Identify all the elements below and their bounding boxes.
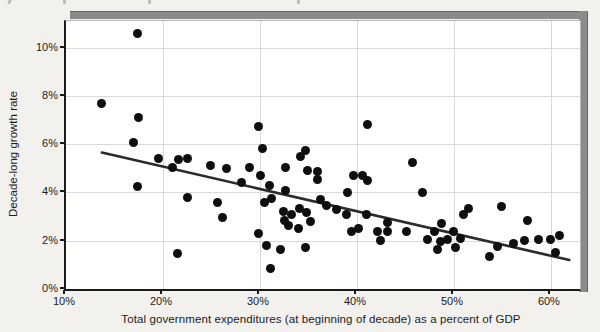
descender-mark <box>7 0 11 4</box>
y-tick-label: 8% <box>28 89 58 101</box>
data-point <box>276 245 285 254</box>
x-tick-label: 20% <box>141 295 181 307</box>
data-point <box>376 236 385 245</box>
data-point <box>443 235 452 244</box>
data-point <box>373 227 382 236</box>
data-point <box>133 29 142 38</box>
x-tick-label: 40% <box>335 295 375 307</box>
x-tick-mark <box>451 290 453 294</box>
y-axis-title: Decade-long growth rate <box>7 44 19 264</box>
data-point <box>296 152 305 161</box>
data-point <box>464 204 473 213</box>
data-point <box>267 194 276 203</box>
y-tick-mark <box>60 142 64 144</box>
data-point <box>97 99 106 108</box>
x-tick-label: 50% <box>432 295 472 307</box>
x-tick-mark <box>160 290 162 294</box>
data-point <box>313 175 322 184</box>
data-point <box>279 207 288 216</box>
data-point <box>281 163 290 172</box>
data-point <box>362 210 371 219</box>
y-tick-mark <box>60 46 64 48</box>
data-point <box>347 227 356 236</box>
y-tick-label: 6% <box>28 137 58 149</box>
data-point <box>213 198 222 207</box>
y-tick-mark <box>60 287 64 289</box>
y-tick-mark <box>60 94 64 96</box>
y-tick-mark <box>60 190 64 192</box>
scatter-plot-figure: 10%20%30%40%50%60% 0%2%4%6%8%10% Total g… <box>0 0 600 332</box>
x-tick-mark <box>257 290 259 294</box>
data-point <box>402 227 411 236</box>
data-point <box>281 186 290 195</box>
descender-mark <box>63 0 66 4</box>
data-point <box>456 234 465 243</box>
trend-line <box>66 21 580 289</box>
x-tick-label: 10% <box>44 295 84 307</box>
data-point <box>306 217 315 226</box>
data-point <box>218 213 227 222</box>
data-point <box>408 158 417 167</box>
x-tick-label: 60% <box>529 295 569 307</box>
data-point <box>433 245 442 254</box>
data-point <box>343 188 352 197</box>
data-point <box>154 154 163 163</box>
x-axis-title: Total government expenditures (at beginn… <box>64 313 578 325</box>
descender-mark <box>148 0 151 4</box>
data-point <box>265 181 274 190</box>
y-tick-label: 0% <box>28 282 58 294</box>
data-point <box>509 239 518 248</box>
data-point <box>430 227 439 236</box>
y-tick-label: 10% <box>28 41 58 53</box>
data-point <box>534 235 543 244</box>
x-tick-mark <box>354 290 356 294</box>
data-point <box>342 210 351 219</box>
x-tick-mark <box>548 290 550 294</box>
plot-area <box>64 20 581 291</box>
data-point <box>183 193 192 202</box>
data-point <box>284 221 293 230</box>
data-point <box>349 171 358 180</box>
x-tick-label: 30% <box>238 295 278 307</box>
data-point <box>523 216 532 225</box>
descender-mark <box>297 0 300 4</box>
data-point <box>183 154 192 163</box>
y-tick-label: 4% <box>28 185 58 197</box>
data-point <box>254 229 263 238</box>
data-point <box>332 205 341 214</box>
x-tick-mark <box>63 290 65 294</box>
y-tick-mark <box>60 239 64 241</box>
frame-shadow-top <box>70 11 588 19</box>
data-point <box>363 176 372 185</box>
data-point <box>383 227 392 236</box>
y-tick-label: 2% <box>28 234 58 246</box>
data-point <box>245 163 254 172</box>
data-point <box>168 163 177 172</box>
data-point <box>254 122 263 131</box>
data-point <box>383 218 392 227</box>
